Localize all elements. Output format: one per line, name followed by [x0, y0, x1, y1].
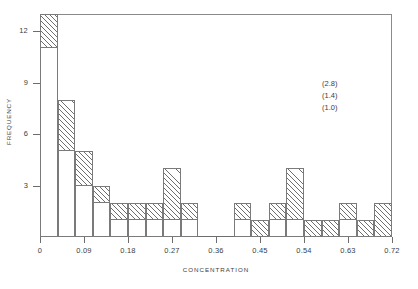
histogram-bar [128, 203, 146, 237]
y-tick-label: 6 [10, 130, 28, 138]
histogram-bar [163, 168, 181, 237]
bar-hatch-band [304, 220, 322, 237]
x-tick [304, 237, 305, 243]
x-tick-label: 0.18 [108, 246, 148, 255]
y-tick [33, 83, 40, 84]
histogram-bar [58, 100, 76, 237]
annotation-group: (2.8) (1.4) (1.0) [322, 78, 366, 114]
histogram-bar [304, 220, 322, 237]
x-tick-label: 0.54 [284, 246, 324, 255]
annotation-value-1: (2.8) [322, 78, 366, 90]
x-tick-label: 0.63 [328, 246, 368, 255]
x-axis-title: CONCENTRATION [40, 266, 392, 273]
annotation-value-2: (1.4) [322, 90, 366, 102]
bar-hatch-band [251, 220, 269, 237]
histogram-bar [181, 203, 199, 237]
bar-hatch-band [374, 203, 392, 237]
x-tick [172, 237, 173, 243]
histogram-bar [286, 168, 304, 237]
bar-hatch-band [128, 203, 146, 220]
x-tick-label: 0.72 [372, 246, 412, 255]
bar-hatch-band [357, 220, 375, 237]
histogram-bar [110, 203, 128, 237]
histogram-bar [40, 14, 58, 237]
bar-hatch-band [269, 203, 287, 220]
x-tick [40, 237, 41, 243]
y-axis-title: FREQUENCY [5, 92, 12, 152]
bar-hatch-band [163, 168, 181, 219]
bar-hatch-band [181, 203, 199, 220]
x-tick-label: 0.27 [152, 246, 192, 255]
histogram-figure: 36912 00.090.180.270.360.450.540.630.72 … [0, 0, 418, 289]
histogram-bar [269, 203, 287, 237]
bar-hatch-band [286, 168, 304, 219]
histogram-bar [75, 151, 93, 237]
y-tick-label: 3 [10, 182, 28, 190]
histogram-bar [339, 203, 357, 237]
y-tick [33, 186, 40, 187]
x-tick [216, 237, 217, 243]
y-tick-label: 9 [10, 79, 28, 87]
histogram-bar [322, 220, 340, 237]
x-tick [392, 237, 393, 243]
bar-hatch-band [40, 14, 58, 48]
histogram-bar [146, 203, 164, 237]
histogram-bar [234, 203, 252, 237]
bar-hatch-band [322, 220, 340, 237]
x-tick [84, 237, 85, 243]
y-tick [33, 31, 40, 32]
bar-hatch-band [58, 100, 76, 151]
bar-hatch-band [110, 203, 128, 220]
bar-hatch-band [234, 203, 252, 220]
y-tick [33, 134, 40, 135]
bar-hatch-band [146, 203, 164, 220]
bar-hatch-band [75, 151, 93, 185]
x-tick-label: 0.45 [240, 246, 280, 255]
histogram-bar-outlier [374, 203, 392, 237]
x-tick [128, 237, 129, 243]
x-tick [348, 237, 349, 243]
histogram-bar [93, 186, 111, 237]
annotation-value-3: (1.0) [322, 102, 366, 114]
bar-hatch-band [93, 186, 111, 203]
bar-hatch-band [339, 203, 357, 220]
x-tick-label: 0 [20, 246, 60, 255]
histogram-bar [357, 220, 375, 237]
bars-layer [40, 14, 392, 237]
x-tick-label: 0.09 [64, 246, 104, 255]
x-tick [260, 237, 261, 243]
x-tick-label: 0.36 [196, 246, 236, 255]
histogram-bar [251, 220, 269, 237]
y-tick-label: 12 [10, 27, 28, 35]
